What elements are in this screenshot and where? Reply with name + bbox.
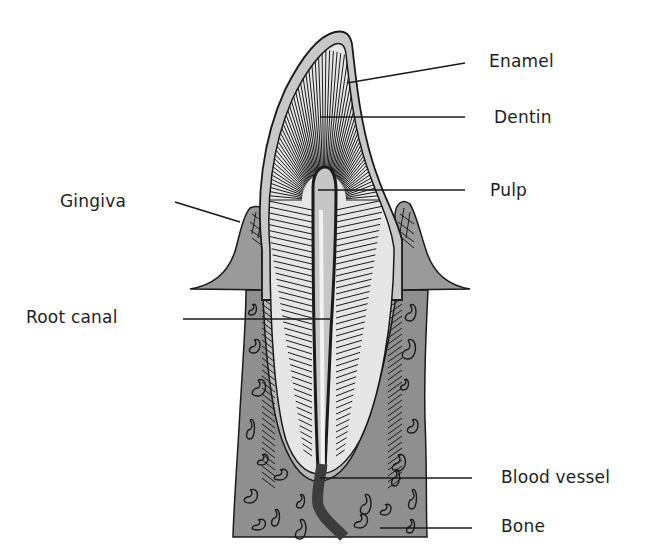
label-root-canal: Root canal xyxy=(26,307,118,327)
label-pulp: Pulp xyxy=(490,180,527,200)
gingiva-right xyxy=(395,202,470,290)
label-bone: Bone xyxy=(501,516,545,536)
label-dentin: Dentin xyxy=(494,107,552,127)
leader-enamel xyxy=(347,63,465,83)
label-gingiva: Gingiva xyxy=(60,191,126,211)
tooth-diagram: Enamel Dentin Pulp Gingiva Root canal Bl… xyxy=(0,0,672,560)
label-blood-vessel: Blood vessel xyxy=(501,467,610,487)
label-enamel: Enamel xyxy=(489,51,554,71)
leader-gingiva xyxy=(175,202,240,222)
root-canal xyxy=(321,210,323,470)
